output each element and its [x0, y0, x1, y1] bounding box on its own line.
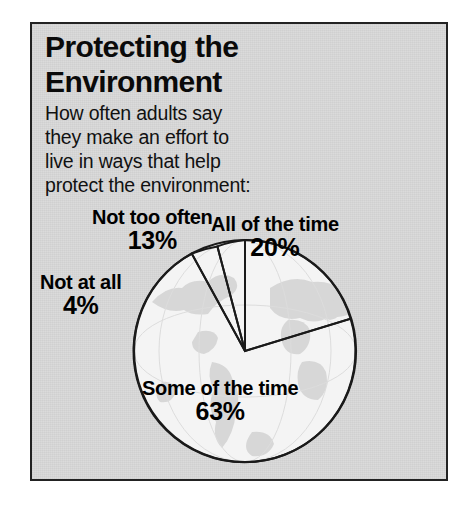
- pie-label-some-of-the-time: Some of the time 63%: [142, 378, 298, 425]
- pie-label-not-at-all-name: Not at all: [40, 272, 121, 292]
- pie-label-some-of-the-time-value: 63%: [142, 399, 298, 425]
- pie-label-all-of-the-time-name: All of the time: [211, 214, 339, 234]
- pie-chart: Not too often 13% All of the time 20% No…: [32, 24, 450, 483]
- pie-label-not-too-often-value: 13%: [92, 228, 213, 254]
- pie-label-all-of-the-time-value: 20%: [211, 235, 339, 261]
- infographic-panel: Protecting the Environment How often adu…: [30, 22, 448, 481]
- pie-label-all-of-the-time: All of the time 20%: [211, 214, 339, 261]
- pie-label-some-of-the-time-name: Some of the time: [142, 378, 298, 398]
- pie-label-not-at-all-value: 4%: [40, 293, 121, 319]
- pie-label-not-too-often-name: Not too often: [92, 207, 213, 227]
- pie-label-not-too-often: Not too often 13%: [92, 207, 213, 254]
- pie-label-not-at-all: Not at all 4%: [40, 272, 121, 319]
